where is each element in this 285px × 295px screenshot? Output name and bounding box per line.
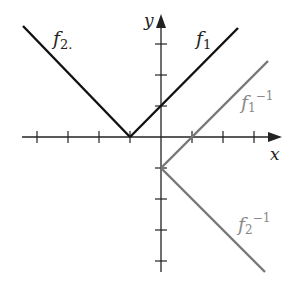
curve-f2 [23,26,130,137]
inverse-functions-diagram: y x f2. f1 f1−1 f2−1 [0,0,285,295]
curve-f2-inverse [161,168,265,272]
x-axis-label: x [270,144,280,164]
x-axis-arrow-icon [268,132,282,142]
label-f1: f1 [194,27,211,52]
label-f1-inverse: f1−1 [239,89,273,115]
y-axis-arrow-icon [156,14,166,28]
y-axis-label: y [143,10,154,30]
curve-f1 [130,28,238,137]
label-f2-inverse: f2−1 [236,211,270,237]
label-f2: f2. [51,27,72,52]
